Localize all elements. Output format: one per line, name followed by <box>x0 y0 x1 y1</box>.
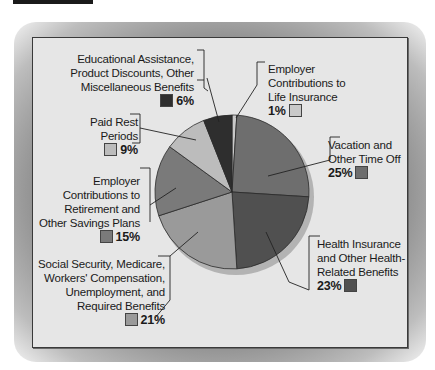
label-text: Retirement and <box>39 202 140 216</box>
leader-education <box>207 78 219 122</box>
label-vacation: Vacation and Other Time Off 25% <box>328 138 400 180</box>
label-text: Paid Rest <box>90 115 138 129</box>
label-text: Workers' Compensation, <box>38 271 165 285</box>
label-text: Unemployment, and <box>38 285 165 299</box>
label-text: Other Time Off <box>328 152 400 166</box>
pct-value: 23% <box>317 279 341 293</box>
label-text: Educational Assistance, <box>70 52 194 66</box>
label-text: Employer <box>268 62 345 76</box>
legend-swatch <box>104 143 117 156</box>
label-retirement: Employer Contributions to Retirement and… <box>39 174 140 244</box>
pct-value: 9% <box>120 143 138 157</box>
legend-swatch <box>344 279 357 292</box>
label-text: Contributions to <box>268 76 345 90</box>
label-text: Life Insurance <box>268 90 345 104</box>
label-educational: Educational Assistance, Product Discount… <box>70 52 194 108</box>
legend-swatch <box>160 94 173 107</box>
pie-slices <box>155 115 309 269</box>
leader-education-bracket <box>197 50 208 91</box>
label-paid-rest: Paid Rest Periods 9% <box>90 115 138 157</box>
label-text: and Other Health- <box>317 251 405 265</box>
label-health: Health Insurance and Other Health- Relat… <box>317 237 405 293</box>
pie-slice <box>232 115 309 197</box>
label-text: Health Insurance <box>317 237 405 251</box>
label-text: Related Benefits <box>317 265 405 279</box>
pct-value: 21% <box>141 313 165 327</box>
legend-swatch <box>289 104 302 117</box>
legend-swatch <box>125 313 138 326</box>
pct-value: 1% <box>268 104 286 118</box>
label-text: Product Discounts, Other <box>70 66 194 80</box>
label-text: Contributions to <box>39 188 140 202</box>
pct-value: 6% <box>176 94 194 108</box>
label-text: Miscellaneous Benefits <box>70 80 194 94</box>
legend-swatch <box>100 230 113 243</box>
pct-value: 15% <box>116 230 140 244</box>
pct-value: 25% <box>328 166 352 180</box>
pie-slice <box>232 192 309 269</box>
label-text: Other Savings Plans <box>39 216 140 230</box>
legend-swatch <box>355 166 368 179</box>
leader-life <box>236 62 265 118</box>
label-text: Vacation and <box>328 138 400 152</box>
label-text: Social Security, Medicare, <box>38 257 165 271</box>
label-life-insurance: Employer Contributions to Life Insurance… <box>268 62 345 118</box>
label-text: Required Benefits <box>38 299 165 313</box>
leader-retirement-1 <box>140 168 150 222</box>
label-text: Employer <box>39 174 140 188</box>
label-social-security: Social Security, Medicare, Workers' Comp… <box>38 257 165 327</box>
label-text: Periods <box>90 129 138 143</box>
